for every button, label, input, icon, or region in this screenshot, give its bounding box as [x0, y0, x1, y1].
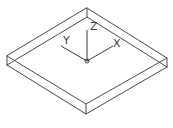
- ucs-icon: Y Z X: [61, 20, 121, 63]
- bottom-front-edges: [7, 65, 167, 114]
- drawing-viewport[interactable]: Y Z X: [0, 0, 173, 128]
- x-axis-line: [87, 46, 113, 61]
- x-axis-label: X: [113, 37, 121, 50]
- wireframe-canvas: Y Z X: [0, 0, 173, 128]
- z-axis-label: Z: [90, 20, 98, 33]
- y-axis-label: Y: [62, 34, 70, 47]
- y-axis-line: [61, 46, 87, 61]
